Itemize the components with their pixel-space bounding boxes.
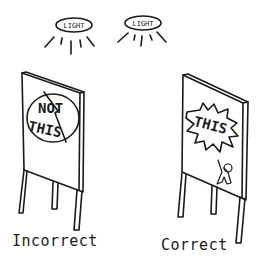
caption-correct: Correct <box>161 236 228 254</box>
sign-incorrect: NOT THIS <box>19 72 84 230</box>
light-right-label: LIGHT <box>132 20 154 28</box>
sign-incorrect-text-1: NOT <box>38 100 63 116</box>
person-figure-icon <box>217 160 232 184</box>
light-left-label: LIGHT <box>63 22 85 30</box>
light-left: LIGHT <box>45 18 94 54</box>
sign-correct: THIS <box>178 74 248 243</box>
light-right: LIGHT <box>118 16 166 46</box>
caption-incorrect: Incorrect <box>12 232 98 250</box>
